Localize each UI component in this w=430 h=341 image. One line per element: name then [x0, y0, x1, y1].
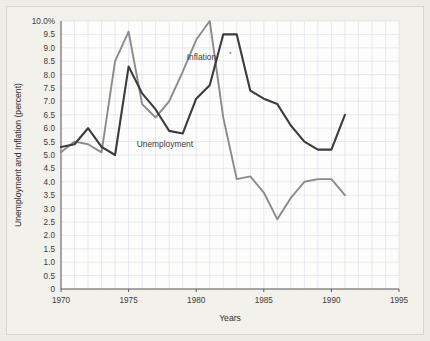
y-tick-label: 5.5: [44, 138, 56, 147]
series-label-unemployment: Unemployment: [137, 139, 194, 149]
y-tick-label: 9.5: [44, 30, 56, 39]
y-tick-label: 2.0: [44, 231, 56, 240]
x-axis-title: Years: [219, 313, 241, 323]
y-tick-label: 1.0: [44, 258, 56, 267]
x-tick-label: 1980: [187, 296, 206, 305]
y-tick-label: 4.0: [44, 178, 56, 187]
chart-figure: 10.0%9.59.08.58.07.57.06.56.05.55.04.54.…: [0, 0, 430, 341]
x-tick-label: 1970: [52, 296, 71, 305]
x-tick-label: 1990: [322, 296, 341, 305]
x-tick-label: 1975: [119, 296, 138, 305]
y-tick-label: 0.5: [44, 272, 56, 281]
y-axis-ticks: 10.0%9.59.08.58.07.57.06.56.05.55.04.54.…: [32, 17, 56, 294]
y-tick-label: 6.0: [44, 124, 56, 133]
gridlines: [61, 21, 399, 289]
y-tick-label: 9.0: [44, 44, 56, 53]
y-tick-label: 3.0: [44, 205, 56, 214]
series-label-inflation: Inflation: [187, 52, 217, 62]
y-tick-label: 8.5: [44, 57, 56, 66]
y-tick-label: 0: [50, 285, 55, 294]
y-tick-label: 7.5: [44, 84, 56, 93]
line-chart: 10.0%9.59.08.58.07.57.06.56.05.55.04.54.…: [7, 7, 425, 336]
y-tick-label: 5.0: [44, 151, 56, 160]
y-tick-label: 2.5: [44, 218, 56, 227]
x-axis-ticks: 197019751980198519901995: [52, 289, 409, 305]
x-tick-label: 1995: [390, 296, 409, 305]
y-tick-label: 3.5: [44, 191, 56, 200]
chart-panel: 10.0%9.59.08.58.07.57.06.56.05.55.04.54.…: [6, 6, 424, 335]
y-tick-label: 8.0: [44, 71, 56, 80]
y-tick-label: 7.0: [44, 97, 56, 106]
x-tick-label: 1985: [255, 296, 274, 305]
y-tick-label: 6.5: [44, 111, 56, 120]
y-axis-title: Unemployment and Inflation (percent): [13, 83, 23, 227]
y-tick-label: 10.0%: [32, 17, 55, 26]
y-tick-label: 1.5: [44, 245, 56, 254]
y-tick-label: 4.5: [44, 164, 56, 173]
